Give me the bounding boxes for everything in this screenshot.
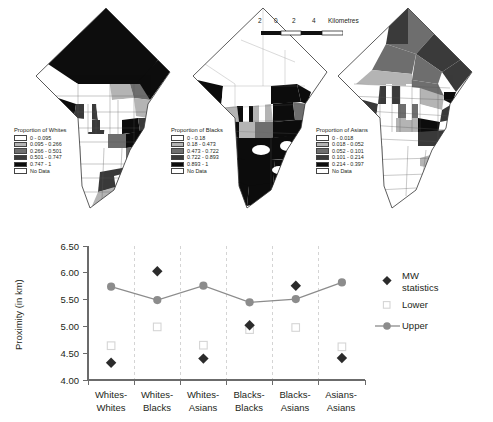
data-point-upper (199, 282, 207, 290)
legend-label: 0.722 - 0.893 (187, 154, 219, 161)
series-lower-markers (107, 323, 345, 351)
y-tick-label: 4.50 (61, 348, 80, 359)
data-point-lower (292, 324, 300, 332)
x-tick-label-line2: Asians (327, 402, 356, 413)
legend-label: 0 - 0.095 (30, 135, 51, 142)
data-point-lower (153, 323, 161, 331)
data-point-upper (153, 296, 161, 304)
legend-swatch (171, 148, 184, 153)
legend-label: No Data (30, 168, 50, 175)
legend-label: 0 - 0.18 (187, 135, 205, 142)
legend-swatch (14, 155, 27, 160)
legend-swatch (14, 168, 27, 173)
legend-title: Proportion of Blacks (171, 127, 223, 134)
y-tick-label: 5.00 (61, 321, 80, 332)
x-tick-label-line2: Blacks (235, 402, 263, 413)
data-point-upper (338, 278, 346, 286)
legend-row: 0.722 - 0.893 (171, 154, 223, 161)
y-tick-label: 5.50 (61, 294, 80, 305)
x-tick-labels: Whites- Whites Whites- Blacks Whites- As… (95, 389, 357, 413)
legend-label: 0.018 - 0.052 (332, 141, 364, 148)
data-point-lower (338, 343, 346, 351)
legend-label: 0.101 - 0.214 (332, 154, 364, 161)
legend-row: 0.473 - 0.722 (171, 148, 223, 155)
legend-swatch (171, 142, 184, 147)
legend-label: 0.095 - 0.266 (30, 141, 62, 148)
data-point-upper (246, 298, 254, 306)
data-point-mw (337, 353, 347, 363)
y-tick-labels: 6.50 6.00 5.50 5.00 4.50 4.00 (61, 241, 80, 386)
legend-row: 0.095 - 0.266 (14, 141, 67, 148)
legend-label: 0.747 - 1 (30, 161, 51, 168)
x-tick-marks (88, 380, 365, 385)
legend-label-upper: Upper (402, 320, 428, 331)
legend-swatch (171, 135, 184, 140)
legend-row: 0.893 - 1 (171, 161, 223, 168)
legend-row: No Data (316, 168, 368, 175)
legend-swatch (316, 162, 329, 167)
scale-tick: 2 (258, 17, 262, 25)
scale-bar-unit: Kilometres (328, 17, 359, 25)
series-upper-markers (107, 278, 346, 306)
legend-label: No Data (187, 168, 207, 175)
legend-row: 0.18 - 0.473 (171, 141, 223, 148)
legend-row: 0.501 - 0.747 (14, 154, 67, 161)
y-tick-marks (83, 246, 88, 380)
map-whites-legend: Proportion of Whites 0 - 0.095 0.095 - 0… (14, 127, 67, 174)
legend-swatch (316, 135, 329, 140)
legend-row: 0.101 - 0.214 (316, 154, 368, 161)
legend-label-mw-line1: MW (402, 270, 419, 281)
legend-marker-lower-icon (383, 302, 390, 309)
data-point-upper (292, 295, 300, 303)
x-tick-label-line1: Asians- (325, 389, 357, 400)
series-mw-markers (106, 266, 347, 368)
legend-row: 0.266 - 0.501 (14, 148, 67, 155)
legend-marker-mw-icon (382, 276, 391, 285)
y-tick-label: 6.50 (61, 241, 80, 252)
data-point-mw (291, 281, 301, 291)
legend-swatch (14, 142, 27, 147)
x-tick-label-line2: Blacks (143, 402, 171, 413)
legend-row: 0.052 - 0.101 (316, 148, 368, 155)
legend-label: 0.052 - 0.101 (332, 148, 364, 155)
x-tick-label-line1: Whites- (187, 389, 219, 400)
scale-tick: 2 (292, 17, 296, 25)
data-point-lower (107, 342, 115, 350)
legend-row: 0.747 - 1 (14, 161, 67, 168)
legend-label: 0.214 - 0.397 (332, 161, 364, 168)
chart-gridlines (134, 246, 318, 380)
data-point-mw (198, 353, 208, 363)
legend-label: 0.893 - 1 (187, 161, 208, 168)
data-point-mw (106, 358, 116, 368)
data-point-mw (152, 266, 162, 276)
series-upper-line (111, 282, 342, 302)
map-whites-shape (18, 0, 178, 215)
legend-swatch (171, 155, 184, 160)
chart-svg: 6.50 6.00 5.50 5.00 4.50 4.00 Proximity … (0, 232, 493, 422)
legend-swatch (171, 162, 184, 167)
legend-swatch (316, 142, 329, 147)
x-tick-label-line1: Blacks- (233, 389, 264, 400)
legend-swatch (316, 168, 329, 173)
proximity-chart: 6.50 6.00 5.50 5.00 4.50 4.00 Proximity … (0, 232, 493, 422)
legend-label: 0.473 - 0.722 (187, 148, 219, 155)
x-tick-label-line1: Whites- (95, 389, 127, 400)
legend-marker-upper-icon (383, 322, 391, 330)
y-tick-label: 6.00 (61, 267, 80, 278)
y-axis-title: Proximity (in km) (13, 279, 24, 350)
legend-swatch (316, 148, 329, 153)
map-blacks-legend: Proportion of Blacks 0 - 0.18 0.18 - 0.4… (171, 127, 223, 174)
scale-bar-ticks: 2 0 2 4 Kilometres (256, 17, 352, 28)
map-whites: Proportion of Whites 0 - 0.095 0.095 - 0… (18, 0, 178, 215)
legend-label-mw-line2: statistics (402, 282, 439, 293)
data-point-lower (200, 341, 208, 349)
x-tick-label-line2: Asians (189, 402, 218, 413)
y-tick-label: 4.00 (61, 375, 80, 386)
legend-row: 0 - 0.018 (316, 135, 368, 142)
x-tick-label-line1: Blacks- (279, 389, 310, 400)
data-point-upper (107, 283, 115, 291)
legend-swatch (14, 162, 27, 167)
map-asians-legend: Proportion of Asians 0 - 0.018 0.018 - 0… (316, 127, 368, 174)
legend-row: 0 - 0.095 (14, 135, 67, 142)
figure-root: Proportion of Whites 0 - 0.095 0.095 - 0… (0, 0, 493, 422)
